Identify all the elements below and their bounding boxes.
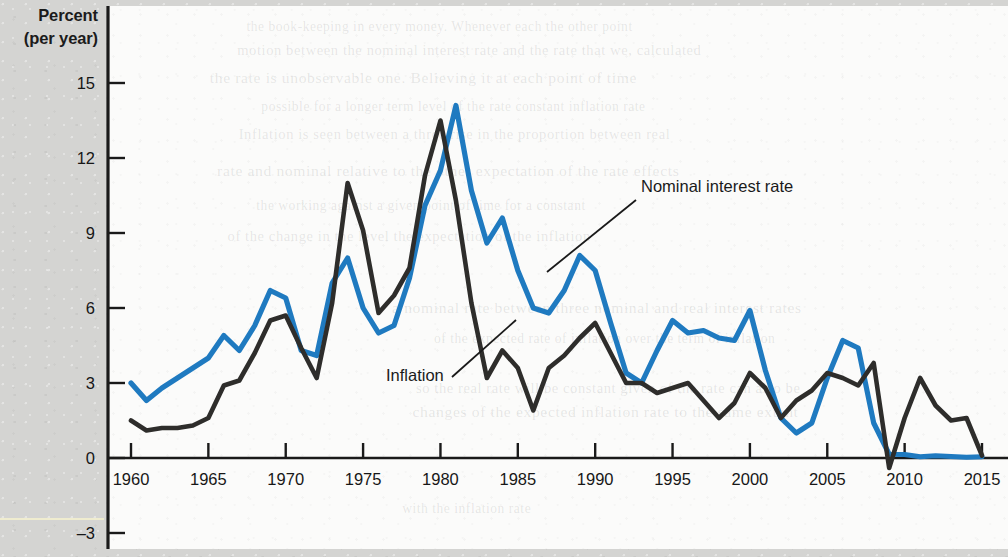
- x-axis-tick-label: 2005: [809, 470, 846, 488]
- y-axis-tick-label: 15: [77, 74, 95, 92]
- annotation-layer: Nominal interest rateInflation: [386, 177, 793, 384]
- x-axis-tick-label: 2000: [732, 470, 769, 488]
- y-axis-tick-label: 6: [86, 299, 95, 317]
- x-axis-tick-label: 1970: [267, 470, 304, 488]
- annotation-leader-line: [547, 200, 636, 272]
- x-axis-tick-label: 1965: [190, 470, 227, 488]
- x-axis-tick-label: 1990: [577, 470, 614, 488]
- y-axis-tick-label: 12: [77, 149, 95, 167]
- series-annotation-label: Nominal interest rate: [641, 177, 793, 195]
- x-axis-tick-label: 2015: [964, 470, 1001, 488]
- figure-container: Percent (per year) the book-keeping in e…: [0, 0, 1008, 557]
- chart-svg: 03691215–3196019651970197519801985199019…: [0, 0, 1008, 557]
- series-line-inflation: [131, 121, 982, 469]
- y-axis-tick-label: –3: [77, 524, 95, 542]
- x-axis-tick-label: 2010: [886, 470, 923, 488]
- y-axis-tick-label: 0: [86, 449, 95, 467]
- x-axis-tick-label: 1960: [113, 470, 150, 488]
- series-line-nominal-interest-rate: [131, 106, 982, 458]
- x-axis-tick-label: 1980: [422, 470, 459, 488]
- series-annotation-label: Inflation: [386, 366, 444, 384]
- x-axis-tick-label: 1975: [345, 470, 382, 488]
- axes-layer: 03691215–3196019651970197519801985199019…: [77, 6, 1008, 549]
- x-axis-tick-label: 1985: [499, 470, 536, 488]
- series-layer: [131, 106, 982, 469]
- x-axis-tick-label: 1995: [654, 470, 691, 488]
- y-axis-tick-label: 9: [86, 224, 95, 242]
- y-axis-tick-label: 3: [86, 374, 95, 392]
